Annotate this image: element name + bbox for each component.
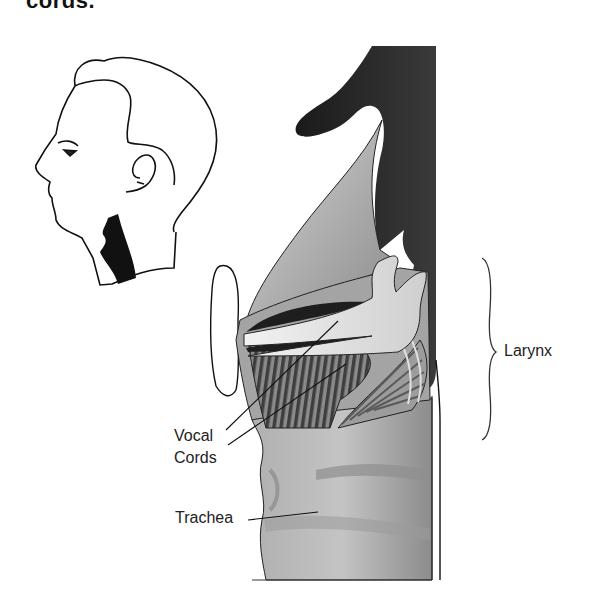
larynx-brace (482, 258, 496, 440)
label-vocal: Vocal (174, 425, 213, 447)
label-cords: Cords (174, 447, 217, 469)
label-trachea: Trachea (175, 507, 233, 529)
throat-highlight (100, 214, 136, 284)
thyroid-cartilage (211, 265, 239, 395)
larynx-diagram (0, 0, 589, 594)
label-larynx: Larynx (504, 340, 552, 362)
